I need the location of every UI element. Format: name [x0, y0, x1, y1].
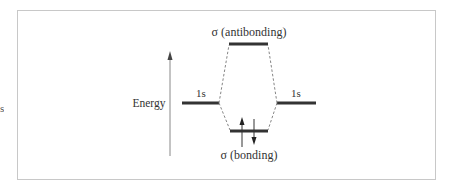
- energy-axis: [168, 51, 173, 156]
- connector-left-to-antibonding: [219, 45, 229, 103]
- dashed-connectors: [219, 45, 277, 130]
- connector-left-to-bonding: [219, 103, 230, 130]
- connector-right-to-antibonding: [268, 45, 277, 103]
- left-1s-label: 1s: [196, 87, 206, 99]
- right-1s-label: 1s: [291, 87, 301, 99]
- bonding-label: σ (bonding): [221, 148, 278, 162]
- arrow-up-icon: [240, 117, 245, 125]
- mo-diagram: Energy 1s 1s σ (antibonding) σ (bonding): [0, 0, 450, 187]
- arrow-down-icon: [252, 137, 257, 145]
- arrow-up-icon: [168, 51, 173, 60]
- energy-axis-label: Energy: [132, 97, 165, 110]
- connector-right-to-bonding: [268, 103, 277, 130]
- antibonding-label: σ (antibonding): [212, 25, 287, 39]
